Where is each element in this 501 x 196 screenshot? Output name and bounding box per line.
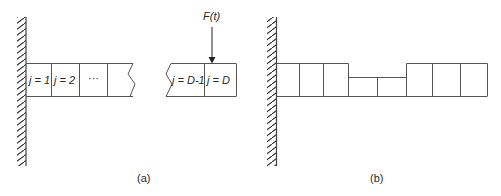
cell-label-j1: j = 1 — [27, 74, 50, 86]
force-label: F(t) — [203, 10, 220, 22]
cell-label-j2: j = 2 — [52, 74, 75, 86]
cell-label-ellipsis: ··· — [88, 72, 99, 84]
cell-label-jD-1: j = D-1 — [170, 74, 205, 86]
caption-b: (b) — [370, 172, 383, 184]
stepped-beam — [277, 64, 488, 97]
force-arrow-icon — [209, 27, 216, 64]
fixed-wall-a — [17, 17, 26, 166]
diagram-canvas: j = 1 j = 2 ··· j = D-1 j = D F(t) (a) — [0, 0, 501, 196]
fixed-wall-b — [267, 17, 277, 166]
caption-a: (a) — [137, 172, 150, 184]
cell-label-jD: j = D — [205, 74, 230, 86]
panel-b: (b) — [267, 17, 488, 184]
panel-a: j = 1 j = 2 ··· j = D-1 j = D F(t) (a) — [17, 10, 237, 184]
